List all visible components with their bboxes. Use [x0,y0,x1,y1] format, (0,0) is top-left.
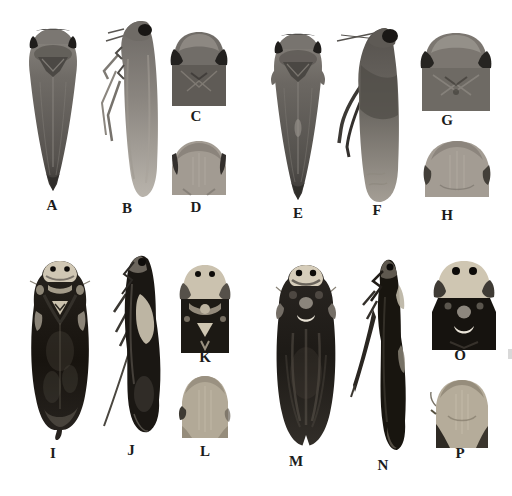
specimen-photo-h [420,137,494,197]
panel-label-i: I [40,446,66,461]
panel-j-lateral-habitus [100,254,164,441]
panel-n-lateral-habitus [343,257,413,456]
specimen-photo-b [96,19,164,201]
panel-label-b: B [114,201,140,216]
specimen-photo-e [269,32,327,202]
panel-m-dorsal-habitus [273,263,339,451]
panel-label-a: A [39,198,65,213]
specimen-plate: A B C [0,0,512,496]
panel-o-head-dorsal [430,256,498,350]
panel-b-lateral-habitus [96,19,164,201]
specimen-photo-g [417,29,495,111]
specimen-photo-p [430,376,495,448]
panel-label-d: D [183,200,209,215]
panel-i-dorsal-habitus [28,259,92,440]
scan-artifact [508,349,512,359]
panel-k-head-dorsal [177,261,233,353]
panel-label-j: J [118,443,144,458]
panel-label-f: F [364,203,390,218]
specimen-photo-n [343,257,413,456]
specimen-photo-j [100,254,164,441]
specimen-photo-m [273,263,339,451]
panel-c-head-dorsal [169,29,229,106]
specimen-photo-d [169,137,229,196]
panel-label-k: K [192,350,218,365]
panel-g-head-dorsal [417,29,495,111]
panel-label-h: H [434,208,460,223]
panel-h-face-frontal [420,137,494,197]
panel-label-e: E [285,206,311,221]
specimen-photo-o [430,256,498,350]
panel-a-dorsal-habitus [26,27,80,193]
panel-label-l: L [192,444,218,459]
specimen-photo-f [333,25,407,205]
panel-label-c: C [183,109,209,124]
panel-e-dorsal-habitus [269,32,327,202]
specimen-photo-c [169,29,229,106]
specimen-photo-l [178,372,233,438]
panel-f-lateral-habitus [333,25,407,205]
panel-label-o: O [447,348,473,363]
specimen-photo-k [177,261,233,353]
panel-d-face-frontal [169,137,229,196]
panel-label-g: G [434,113,460,128]
specimen-photo-a [26,27,80,193]
specimen-photo-i [28,259,92,440]
panel-p-face-frontal [430,376,495,448]
panel-label-n: N [370,458,396,473]
panel-label-m: M [283,454,309,469]
panel-l-face-frontal [178,372,233,438]
panel-label-p: P [447,446,473,461]
